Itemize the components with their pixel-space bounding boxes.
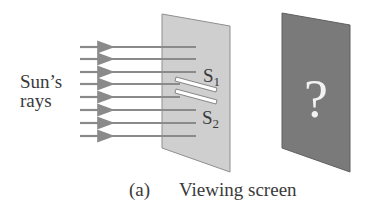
sun-rays-label: Sun’s <box>20 71 62 92</box>
caption-text: Viewing screen <box>179 179 297 200</box>
double-slit-diagram: S1 S2 Sun’s rays ? (a) Viewing screen <box>0 0 365 206</box>
slit-panel <box>162 14 230 172</box>
viewing-screen: ? <box>282 13 350 172</box>
sun-rays-label-line2: rays <box>20 90 52 111</box>
caption-tag: (a) <box>129 179 150 201</box>
question-mark-icon: ? <box>304 69 328 129</box>
